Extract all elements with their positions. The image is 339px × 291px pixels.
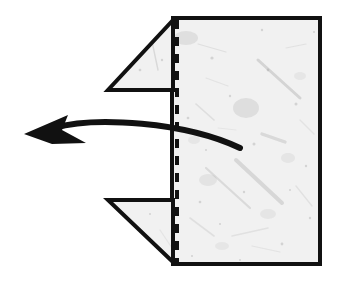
paper-speck xyxy=(229,95,231,97)
paper-speck xyxy=(295,103,298,106)
paper-speck xyxy=(191,255,193,257)
paper-speck xyxy=(305,165,307,167)
fold-diagram-canvas xyxy=(0,0,339,291)
paper-speck xyxy=(149,213,151,215)
paper-blot xyxy=(188,136,200,144)
paper-blot xyxy=(294,72,306,80)
paper-speck xyxy=(313,31,315,33)
paper-speck xyxy=(139,69,142,72)
paper-speck xyxy=(289,189,291,191)
paper-blot xyxy=(260,209,276,219)
paper-speck xyxy=(281,243,284,246)
paper-speck xyxy=(205,149,207,151)
paper-speck xyxy=(199,201,202,204)
paper-speck xyxy=(267,69,270,72)
paper-speck xyxy=(261,29,263,31)
paper-blot xyxy=(281,153,295,163)
paper-speck xyxy=(243,191,245,193)
paper-speck xyxy=(161,59,163,61)
paper-blot xyxy=(215,242,229,250)
paper-speck xyxy=(309,217,311,219)
paper-speck xyxy=(239,259,241,261)
paper-speck xyxy=(187,117,190,120)
paper-speck xyxy=(219,223,221,225)
paper-speck xyxy=(210,56,213,59)
paper-speck xyxy=(253,143,256,146)
paper-blot xyxy=(233,98,259,118)
origami-fold-diagram xyxy=(0,0,339,291)
